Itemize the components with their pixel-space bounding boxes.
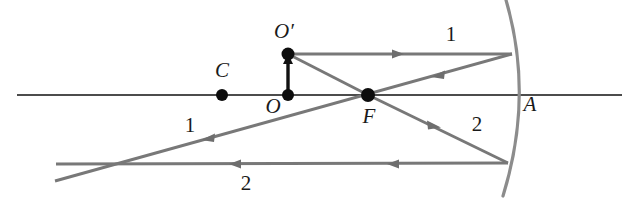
diagram-labels: C O O′ F A 1 1 2 2 [185, 19, 537, 195]
ray-2-reflected-arrowhead-right [387, 160, 399, 169]
ray-2-reflected-segment [56, 163, 508, 164]
point-object-base [282, 89, 294, 101]
ray-1 [55, 50, 512, 182]
label-ray-one-lower: 1 [185, 113, 196, 137]
ray-2 [56, 54, 508, 169]
point-center-of-curvature [216, 89, 228, 101]
mirror-arc [503, 0, 519, 196]
label-object-tip: O′ [274, 19, 294, 43]
label-object-base: O [265, 94, 280, 118]
label-focal-point: F [362, 104, 376, 128]
label-ray-one-upper: 1 [446, 22, 457, 46]
ray-2-object-to-focus-segment [288, 54, 372, 97]
label-mirror-vertex: A [522, 92, 537, 116]
ray-2-reflected-arrowhead-left [229, 160, 241, 169]
ray-diagram-canvas: C O O′ F A 1 1 2 2 [0, 0, 640, 207]
ray-diagram-figure: C O O′ F A 1 1 2 2 [0, 0, 640, 207]
ray-1-incident-arrowhead [392, 50, 404, 59]
point-markers [216, 48, 375, 103]
label-ray-two-upper: 2 [472, 112, 483, 136]
label-ray-two-lower: 2 [241, 171, 252, 195]
point-object-tip [282, 48, 295, 61]
point-focal [361, 88, 375, 102]
label-center-of-curvature: C [215, 58, 230, 82]
